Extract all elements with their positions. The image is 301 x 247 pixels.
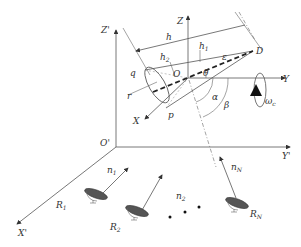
label-Y: Y xyxy=(283,74,290,84)
label-epsilon: ε xyxy=(222,52,227,62)
cone-bottom-edge xyxy=(166,51,253,108)
label-R1: R1 xyxy=(55,200,67,211)
label-theta: θ xyxy=(203,68,209,78)
label-X-prime: X' xyxy=(17,228,27,238)
q-to-o xyxy=(145,70,188,78)
radar-R1 xyxy=(83,186,108,203)
global-axes xyxy=(17,30,290,224)
x-axis xyxy=(145,78,188,119)
labels: Z' Z h h1 h2 D ε θ O q r p X Y α β ωc O'… xyxy=(17,16,290,238)
cone xyxy=(128,51,253,108)
label-z: Z xyxy=(176,16,184,26)
rotation-arrow-icon xyxy=(250,84,262,96)
label-n2: n2 xyxy=(176,191,186,202)
ellipsis-dots xyxy=(169,206,201,219)
n2-vector xyxy=(141,175,162,212)
label-q: q xyxy=(130,68,136,78)
label-r: r xyxy=(127,91,132,101)
label-X: X xyxy=(132,116,140,126)
h-extension-left xyxy=(123,28,150,75)
label-RN: RN xyxy=(249,209,263,220)
label-n1: n1 xyxy=(107,165,117,176)
x-prime-axis xyxy=(17,147,116,224)
angles xyxy=(189,12,255,167)
label-omega: ωc xyxy=(265,96,276,107)
h-dimension-arrow xyxy=(136,25,245,51)
label-O: O xyxy=(173,69,181,79)
alpha-arc xyxy=(196,78,213,102)
radar-vectors xyxy=(100,157,236,212)
label-Y-prime: Y' xyxy=(282,151,290,161)
label-h: h xyxy=(166,32,172,42)
radar-RN xyxy=(224,195,249,212)
dot xyxy=(169,216,172,219)
label-R2: R2 xyxy=(109,222,121,233)
label-h2: h2 xyxy=(160,52,170,63)
label-h1: h1 xyxy=(199,41,209,52)
height-dimension xyxy=(123,12,262,76)
label-alpha: α xyxy=(212,92,218,102)
dot xyxy=(184,211,187,214)
dot xyxy=(198,206,201,209)
label-nN: nN xyxy=(231,162,243,173)
label-z-prime: Z' xyxy=(100,25,110,35)
cone-radar-diagram: Z' Z h h1 h2 D ε θ O q r p X Y α β ωc O'… xyxy=(0,0,301,247)
label-p: p xyxy=(168,110,174,120)
label-beta: β xyxy=(223,100,229,110)
label-O-prime: O' xyxy=(100,138,110,148)
radar-R2 xyxy=(124,203,149,220)
label-D: D xyxy=(255,46,263,56)
h-extension-right xyxy=(235,12,262,50)
